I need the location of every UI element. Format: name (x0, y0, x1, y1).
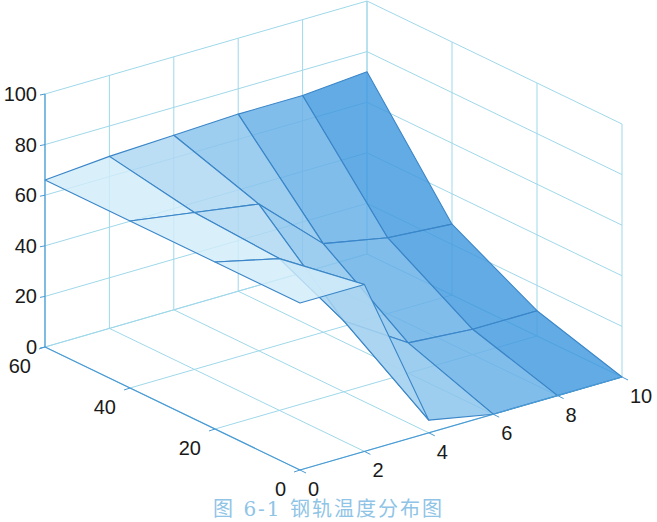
z-tick-label: 60 (15, 184, 37, 206)
z-tick (40, 94, 45, 95)
floor-grid-x (109, 328, 364, 451)
x-tick (429, 433, 435, 436)
y-tick-label: 20 (179, 437, 201, 459)
x-tick-label: 10 (630, 385, 652, 407)
z-tick (40, 296, 45, 297)
z-tick (40, 246, 45, 247)
x-tick (558, 396, 564, 399)
x-tick-label: 4 (437, 441, 448, 463)
z-tick (40, 145, 45, 146)
x-tick (364, 451, 370, 454)
x-tick-label: 2 (372, 459, 383, 481)
side-wall-grid-z (367, 1, 622, 124)
x-tick (622, 377, 628, 380)
x-tick (493, 414, 499, 417)
y-tick (124, 388, 130, 390)
back-wall-grid-z (45, 1, 367, 94)
x-tick-label: 8 (566, 404, 577, 426)
figure-caption: 图 6-1 钢轨温度分布图 (0, 493, 657, 522)
z-tick-label: 80 (15, 134, 37, 156)
surface (45, 72, 622, 420)
z-tick-label: 100 (4, 83, 37, 105)
z-tick (40, 195, 45, 196)
z-tick-label: 40 (15, 235, 37, 257)
y-tick-label: 60 (9, 355, 31, 377)
y-tick (294, 470, 300, 472)
x-tick-label: 6 (501, 422, 512, 444)
y-axis-line (45, 347, 300, 470)
z-tick-label: 20 (15, 285, 37, 307)
y-tick-label: 40 (94, 396, 116, 418)
x-tick (300, 470, 306, 473)
y-tick (209, 429, 215, 431)
